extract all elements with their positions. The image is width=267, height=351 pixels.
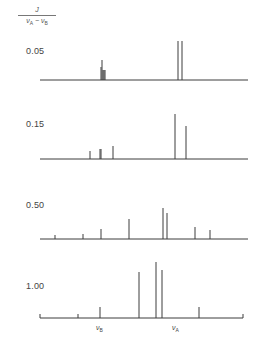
spectrum-panel-2 <box>40 208 248 239</box>
spectrum-panel-3 <box>40 262 243 318</box>
spectrum-panel-1 <box>40 114 248 159</box>
spectra-diagram <box>0 0 267 351</box>
spectrum-panel-0 <box>40 41 248 80</box>
